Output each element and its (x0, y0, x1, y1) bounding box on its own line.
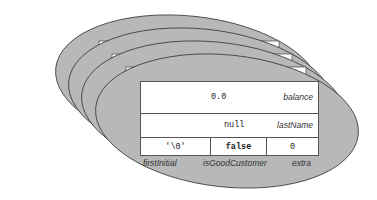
lastname-row: null lastName (141, 114, 318, 138)
extra-cell: 0 (267, 138, 318, 156)
isgoodcustomer-label: isGoodCustomer (203, 158, 267, 168)
lastname-value: null (224, 120, 244, 130)
balance-label: balance (283, 92, 313, 102)
balance-row: 0.0 balance (141, 82, 318, 114)
lastname-label: lastName (277, 120, 313, 130)
object-stack-diagram: 0.0 balance null lastName '\0' false 0 f… (0, 0, 377, 200)
balance-value: 0.0 (211, 92, 226, 102)
extra-label: extra (292, 158, 311, 168)
object-fields-table: 0.0 balance null lastName '\0' false 0 (140, 81, 319, 156)
isgoodcustomer-value: false (226, 142, 252, 152)
extra-value: 0 (290, 142, 295, 152)
primitive-fields-row: '\0' false 0 (141, 138, 318, 156)
isgoodcustomer-cell: false (211, 138, 267, 156)
firstinitial-cell: '\0' (141, 138, 211, 156)
firstinitial-label: firstInitial (143, 158, 177, 168)
firstinitial-value: '\0' (165, 142, 185, 152)
